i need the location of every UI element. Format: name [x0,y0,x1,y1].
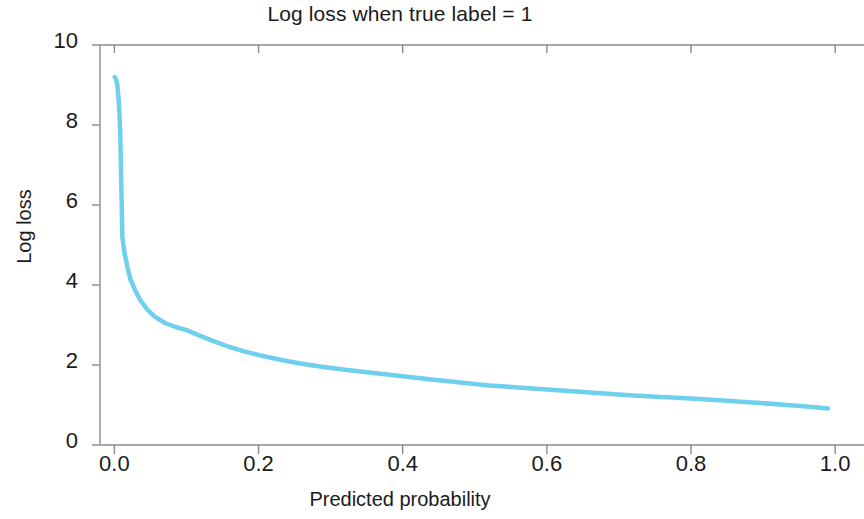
y-tick-label: 8 [32,110,78,132]
x-tick-label: 0.0 [79,453,149,475]
x-axis-ticks-top [114,45,835,53]
y-tick-label: 4 [32,270,78,292]
y-axis-title: Log loss [13,177,36,277]
x-tick-label: 1.0 [800,453,864,475]
plot-area [0,0,864,519]
y-tick-label: 10 [32,30,78,52]
y-axis-ticks [92,45,100,445]
y-tick-label: 0 [32,430,78,452]
y-tick-label: 2 [32,350,78,372]
x-tick-label: 0.8 [656,453,726,475]
x-tick-label: 0.4 [368,453,438,475]
x-tick-label: 0.6 [512,453,582,475]
chart-figure: Log loss when true label = 1 0246810 0.0… [0,0,864,519]
log-loss-curve [115,77,828,409]
x-axis-ticks [114,445,835,454]
x-tick-label: 0.2 [224,453,294,475]
x-axis-title: Predicted probability [0,488,800,511]
y-tick-label: 6 [32,190,78,212]
